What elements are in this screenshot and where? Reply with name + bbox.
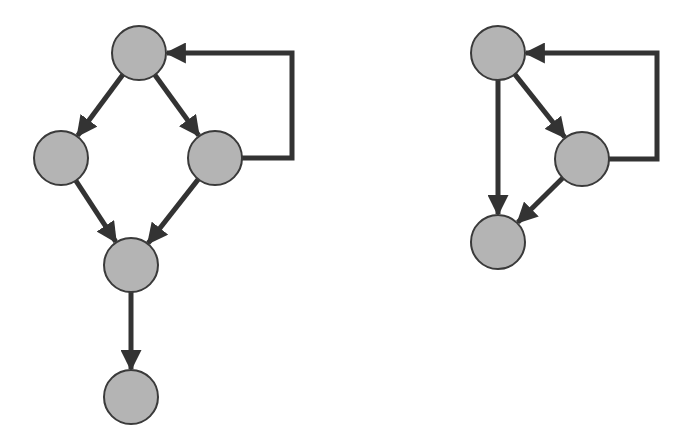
right-graph-node-h	[471, 215, 525, 269]
edge-c-to-d	[148, 178, 199, 243]
edges	[75, 53, 657, 369]
left-graph-node-c	[188, 131, 242, 185]
edge-g-to-h	[518, 177, 564, 223]
left-graph-node-d	[104, 238, 158, 292]
edge-a-to-c	[154, 73, 199, 135]
right-graph-node-f	[471, 26, 525, 80]
left-graph-node-b	[34, 131, 88, 185]
left-graph-node-e	[104, 370, 158, 424]
edge-a-to-b	[78, 73, 124, 135]
edge-f-to-g	[514, 73, 565, 137]
diagram-canvas	[0, 0, 690, 443]
right-graph-node-g	[555, 132, 609, 186]
edge-b-to-d	[75, 179, 116, 242]
left-graph-node-a	[112, 26, 166, 80]
